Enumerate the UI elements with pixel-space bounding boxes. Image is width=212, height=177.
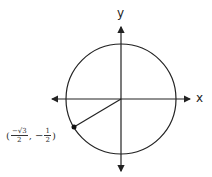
x-coordinate-fraction: −√3 2 [11, 127, 28, 144]
separator: , − [29, 130, 44, 141]
y-axis-label: y [117, 6, 124, 20]
close-paren: ) [52, 130, 56, 141]
point-coordinates-label: ( −√3 2 , − 1 2 ) [6, 127, 56, 144]
x-axis-label: x [196, 91, 203, 105]
point-marker [72, 125, 77, 130]
open-paren: ( [6, 130, 10, 141]
unit-circle-diagram [0, 0, 212, 177]
radius-line [74, 99, 121, 127]
y-coordinate-fraction: 1 2 [44, 127, 50, 144]
